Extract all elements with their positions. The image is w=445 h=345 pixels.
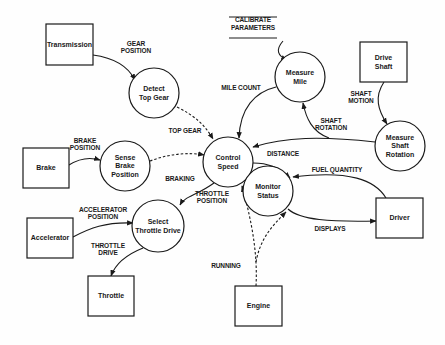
flow-displays xyxy=(288,209,376,221)
process-measure-mile[interactable]: MeasureMile xyxy=(275,52,325,102)
entity-label: Driver xyxy=(389,214,410,221)
flow-mile-count xyxy=(239,87,276,138)
store-label: CALIBRATEPARAMETERS xyxy=(231,16,276,31)
flow-label-running-to-control: RUNNING xyxy=(211,262,241,269)
external-entity-brake[interactable]: Brake xyxy=(23,148,69,188)
flow-arrow xyxy=(293,175,386,198)
process-measure-shaft-rotation[interactable]: MeasureShaftRotation xyxy=(375,121,425,171)
external-entity-engine[interactable]: Engine xyxy=(235,286,282,326)
flow-label-mile-count: MILE COUNT xyxy=(221,84,261,91)
process-select-throttle-drive[interactable]: SelectThrottle Drive xyxy=(132,200,184,252)
flow-label-accelerator-position: ACCELERATORPOSITION xyxy=(79,206,128,221)
flow-fuel-quantity xyxy=(293,175,386,198)
flow-arrow xyxy=(93,55,135,80)
flow-shaft-rotation xyxy=(253,138,375,147)
flow-label-shaft-rotation: SHAFTROTATION xyxy=(315,117,348,131)
flow-label-gear-position: GEARPOSITION xyxy=(121,40,152,55)
flow-label-throttle-position: THROTTLEPOSITION xyxy=(195,190,230,205)
flow-shaft-motion xyxy=(378,82,387,124)
entity-label: Engine xyxy=(247,302,270,310)
external-entity-throttle[interactable]: Throttle xyxy=(88,276,134,316)
flow-label-brake-position: BRAKEPOSITION xyxy=(70,137,101,152)
flow-brake-position xyxy=(69,158,100,165)
flow-arrow xyxy=(150,154,204,161)
diagram-canvas: TransmissionDriveShaftBrakeDriverAcceler… xyxy=(0,0,445,345)
entity-label: Brake xyxy=(36,164,56,171)
flow-label-fuel-quantity: FUEL QUANTITY xyxy=(312,166,363,174)
flow-label-top-gear: TOP GEAR xyxy=(169,127,202,134)
flow-braking xyxy=(150,154,204,161)
entity-label: DriveShaft xyxy=(375,54,393,70)
external-entity-drive-shaft[interactable]: DriveShaft xyxy=(360,42,407,82)
shapes-layer: TransmissionDriveShaftBrakeDriverAcceler… xyxy=(23,16,425,326)
flow-accelerator-position xyxy=(73,223,133,237)
data-store-calibrate-parameters[interactable]: CALIBRATEPARAMETERS xyxy=(229,16,277,38)
flow-arrow xyxy=(288,209,376,221)
flow-label-distance: DISTANCE xyxy=(267,150,300,157)
flow-label-throttle-drive: THROTTLEDRIVE xyxy=(91,242,126,257)
flow-gear-position xyxy=(93,55,135,80)
external-entity-accelerator[interactable]: Accelerator xyxy=(27,218,73,258)
process-label: ControlSpeed xyxy=(216,154,241,171)
flow-label-braking: BRAKING xyxy=(165,175,195,182)
flow-arrow xyxy=(378,82,387,124)
entity-label: Transmission xyxy=(47,41,92,48)
flow-arrow xyxy=(253,138,375,147)
process-label: MonitorStatus xyxy=(255,183,281,199)
flow-arrow xyxy=(256,212,286,262)
process-detect-top-gear[interactable]: DetectTop Gear xyxy=(129,68,179,118)
data-flow-diagram: TransmissionDriveShaftBrakeDriverAcceler… xyxy=(0,0,445,345)
process-monitor-status[interactable]: MonitorStatus xyxy=(243,166,293,216)
entity-label: Throttle xyxy=(98,292,124,299)
flow-label-shaft-motion: SHAFTMOTION xyxy=(348,90,374,105)
external-entity-transmission[interactable]: Transmission xyxy=(46,24,93,65)
entity-label: Accelerator xyxy=(31,234,70,241)
flow-arrow xyxy=(239,87,276,138)
flow-running-to-monitor xyxy=(256,212,286,262)
process-sense-brake-position[interactable]: SenseBrakePosition xyxy=(100,141,150,191)
process-label: SenseBrakePosition xyxy=(111,154,139,178)
flow-label-displays: DISPLAYS xyxy=(314,225,346,232)
flow-arrow xyxy=(69,158,100,165)
external-entity-driver[interactable]: Driver xyxy=(376,198,423,238)
flow-arrow xyxy=(73,223,133,237)
